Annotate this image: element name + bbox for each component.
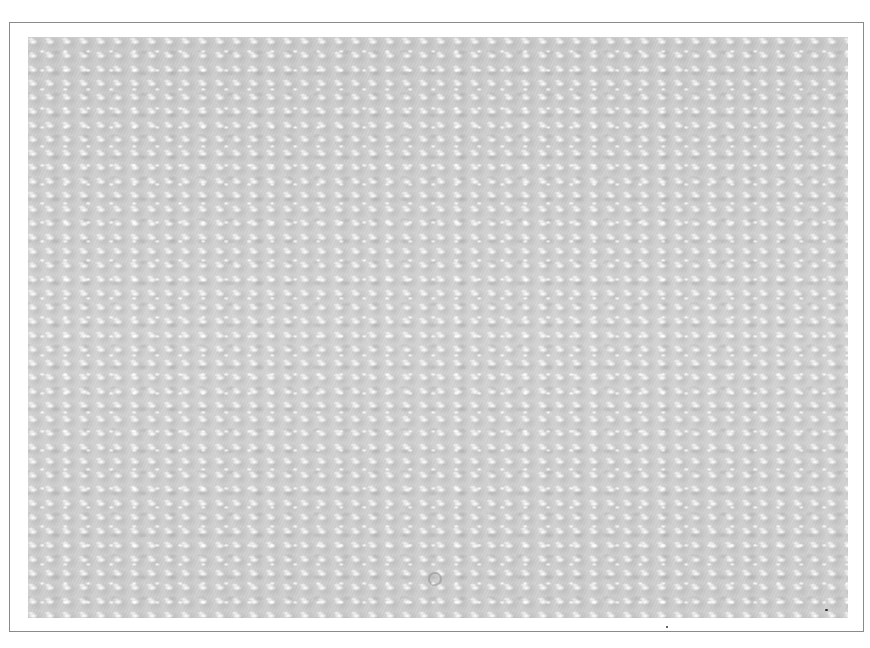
dark-speck — [825, 609, 828, 611]
dark-speck-outside — [666, 626, 668, 628]
circular-smudge — [428, 572, 442, 586]
bubble-wrap-photo — [28, 37, 848, 618]
